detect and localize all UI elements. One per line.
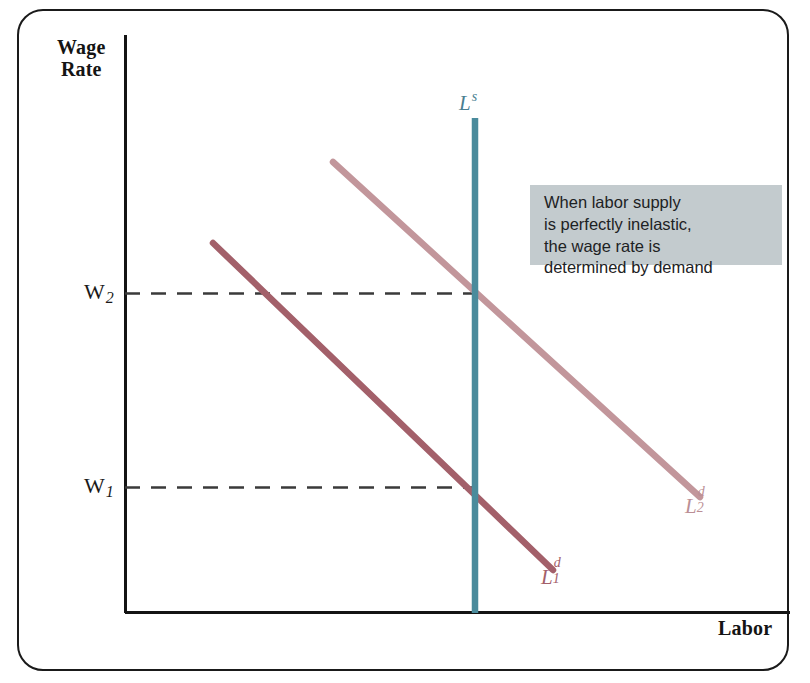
y-axis-title: Wage Rate: [57, 36, 106, 81]
curve-label-demand-1: Ld1: [541, 563, 564, 588]
tick-label-w2: W2: [84, 279, 114, 307]
curve-label-supply-base: L: [459, 91, 471, 115]
curve-label-demand-1-base: L: [541, 565, 553, 589]
annotation-callout: When labor supply is perfectly inelastic…: [530, 185, 782, 265]
curve-label-demand-1-affixes: d1: [553, 563, 564, 584]
annotation-callout-text: When labor supply is perfectly inelastic…: [544, 192, 782, 279]
curve-label-demand-2-base: L: [685, 494, 697, 518]
tick-label-w1: W1: [84, 473, 114, 501]
curve-label-supply-superscript: s: [472, 89, 477, 104]
x-axis-title: Labor: [718, 617, 772, 639]
plot-area: [0, 0, 810, 683]
tick-label-w2-subscript: 2: [105, 289, 114, 306]
tick-label-w1-base: W: [84, 473, 105, 498]
curve-label-demand-1-subscript: 1: [553, 572, 560, 586]
tick-label-w1-subscript: 1: [105, 483, 114, 500]
curve-label-demand-1-superscript: d: [554, 556, 561, 570]
curve-label-supply: Ls: [459, 90, 477, 114]
curve-label-demand-2-affixes: d2: [697, 492, 708, 513]
curve-label-demand-2-superscript: d: [698, 485, 705, 499]
demand-curve-1: [213, 243, 553, 570]
curve-label-demand-2: Ld2: [685, 492, 708, 517]
figure-canvas: Wage Rate Labor W2 W1 Ls Ld2 Ld1 When la…: [0, 0, 810, 683]
curve-label-demand-2-subscript: 2: [697, 501, 704, 515]
tick-label-w2-base: W: [84, 279, 105, 304]
